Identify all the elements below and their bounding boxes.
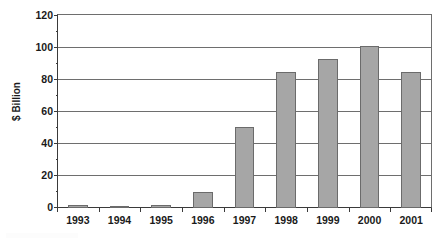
y-minor-tick-mark: [56, 95, 59, 96]
x-label-1996: 1996: [182, 214, 224, 226]
x-label-1999: 1999: [307, 214, 349, 226]
x-label-2001: 2001: [390, 214, 432, 226]
x-tick-mark: [349, 208, 350, 212]
x-label-1997: 1997: [224, 214, 266, 226]
bar-2001[interactable]: [401, 72, 421, 208]
bar-1996[interactable]: [193, 192, 213, 208]
y-minor-tick-mark: [56, 31, 59, 32]
x-label-1995: 1995: [140, 214, 182, 226]
bar-1999[interactable]: [318, 59, 338, 208]
x-label-1994: 1994: [99, 214, 141, 226]
y-minor-tick-mark: [56, 159, 59, 160]
y-tick-mark: [54, 79, 58, 80]
x-tick-mark: [224, 208, 225, 212]
y-tick-label: 120: [35, 9, 53, 21]
bar-1998[interactable]: [276, 72, 296, 208]
x-tick-mark: [182, 208, 183, 212]
x-tick-mark: [57, 208, 58, 212]
bar-1997[interactable]: [235, 127, 255, 208]
x-tick-mark: [99, 208, 100, 212]
x-label-1993: 1993: [57, 214, 99, 226]
y-tick-label: 60: [41, 105, 53, 117]
x-tick-mark: [265, 208, 266, 212]
x-label-2000: 2000: [349, 214, 391, 226]
bar-chart: $ Billion 020406080100120 19931994199519…: [0, 0, 447, 243]
x-axis-labels: 199319941995199619971998199920002001: [57, 214, 432, 226]
x-tick-cell: [140, 208, 182, 213]
y-minor-tick-mark: [56, 63, 59, 64]
y-tick-label: 100: [35, 41, 53, 53]
x-tick-cell: [265, 208, 307, 213]
x-tick-cell: [182, 208, 224, 213]
y-tick-mark: [54, 175, 58, 176]
x-axis-ticks: [57, 208, 432, 213]
x-tick-mark: [390, 208, 391, 212]
y-tick-mark: [54, 15, 58, 16]
x-tick-cell: [57, 208, 99, 213]
x-tick-cell: [307, 208, 349, 213]
x-tick-cell: [99, 208, 141, 213]
x-tick-mark: [307, 208, 308, 212]
y-minor-tick-mark: [56, 191, 59, 192]
y-tick-mark: [54, 143, 58, 144]
y-tick-label: 0: [47, 201, 53, 213]
x-tick-cell: [390, 208, 432, 213]
y-tick-label: 80: [41, 73, 53, 85]
x-tick-cell: [224, 208, 266, 213]
x-tick-mark: [140, 208, 141, 212]
x-label-1998: 1998: [265, 214, 307, 226]
y-axis-title: $ Billion: [11, 62, 22, 142]
scan-artifact: [6, 233, 78, 238]
x-tick-cell: [349, 208, 391, 213]
y-tick-label: 40: [41, 137, 53, 149]
y-tick-mark: [54, 47, 58, 48]
y-minor-tick-mark: [56, 127, 59, 128]
y-tick-mark: [54, 111, 58, 112]
y-tick-label: 20: [41, 169, 53, 181]
x-tick-mark: [431, 208, 432, 212]
bar-2000[interactable]: [360, 46, 380, 208]
